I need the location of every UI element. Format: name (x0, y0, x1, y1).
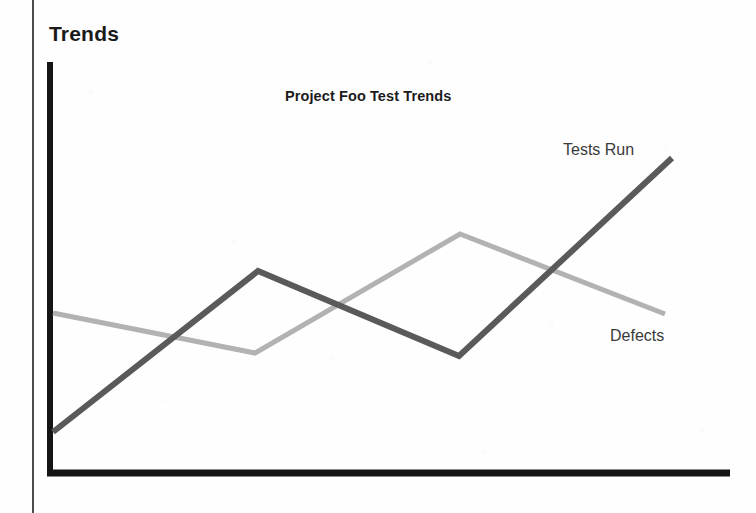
series-label-tests-run: Tests Run (563, 141, 634, 159)
series-line-tests-run (53, 158, 672, 432)
document-page: Trends Project Foo Test Trends Tests Run… (0, 0, 756, 513)
trends-line-chart (0, 0, 756, 513)
series-label-defects: Defects (610, 327, 664, 345)
